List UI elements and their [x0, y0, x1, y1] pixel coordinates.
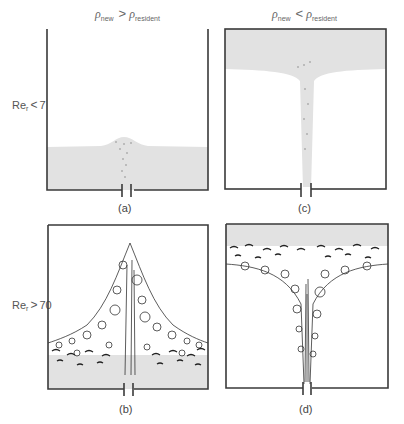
operator: <	[296, 6, 304, 21]
row-label-high-reynolds: Rer>70	[12, 298, 52, 312]
panel-b	[47, 225, 210, 397]
panel-d-drawing	[225, 224, 389, 396]
panel-c-drawing	[224, 29, 387, 199]
rho-symbol: ρ	[272, 7, 278, 21]
reynolds-subscript: r	[26, 305, 28, 312]
panel-b-drawing	[47, 225, 210, 397]
row-label-low-reynolds: Rer<7	[12, 98, 46, 112]
panel-d	[225, 224, 389, 396]
reynolds-label: Re	[12, 99, 26, 111]
subscript-new: new	[278, 15, 291, 22]
reynolds-value: 7	[39, 99, 45, 111]
caption-a: (a)	[118, 202, 131, 214]
caption-c: (c)	[298, 202, 311, 214]
reynolds-label: Re	[12, 299, 26, 311]
subscript-resident: resident	[135, 15, 160, 22]
subscript-new: new	[101, 15, 114, 22]
rho-symbol: ρ	[95, 7, 101, 21]
panel-a-drawing	[46, 29, 209, 199]
panel-a	[46, 29, 209, 199]
column-header-lighter: ρnew<ρresident	[272, 6, 339, 22]
subscript-resident: resident	[312, 15, 337, 22]
reynolds-subscript: r	[26, 105, 28, 112]
operator: >	[119, 6, 127, 21]
caption-d: (d)	[299, 403, 312, 415]
column-header-denser: ρnew>ρresident	[95, 6, 162, 22]
caption-b: (b)	[119, 403, 132, 415]
operator: >	[30, 298, 37, 312]
panel-c	[224, 29, 387, 199]
operator: <	[30, 98, 37, 112]
